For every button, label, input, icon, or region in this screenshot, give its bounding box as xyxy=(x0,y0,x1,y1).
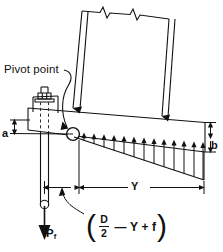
formula-numerator: D xyxy=(99,214,109,225)
load-label: Pf xyxy=(46,228,56,240)
pivot-point-label: Pivot point xyxy=(4,64,59,76)
formula-fraction: D 2 xyxy=(99,214,109,239)
formula-denominator: 2 xyxy=(101,228,107,239)
formula-close-paren: ) xyxy=(157,214,167,238)
formula-term-f: f xyxy=(152,221,156,233)
formula-minus-operator: — xyxy=(115,221,127,233)
dimension-b-label: b xyxy=(211,140,218,151)
break-line xyxy=(82,7,169,20)
base-plate xyxy=(28,108,205,152)
formula-open-paren: ( xyxy=(86,214,96,238)
pivot-leader-line xyxy=(61,70,72,130)
vessel-shell xyxy=(73,11,175,117)
fillet-weld xyxy=(73,107,171,122)
pressure-arrows xyxy=(81,133,205,180)
hex-nut xyxy=(35,87,54,102)
load-label-text: P xyxy=(46,227,54,239)
dimension-Y-label: Y xyxy=(131,181,138,192)
anchor-bolt xyxy=(40,131,48,209)
formula-expression: ( D 2 — Y + f ) xyxy=(86,214,167,239)
formula-plus-operator: + xyxy=(142,221,149,233)
formula-term-Y: Y xyxy=(130,221,138,233)
dimension-Y xyxy=(78,140,204,194)
dimension-a-label: a xyxy=(2,128,8,139)
figure-canvas: Pivot point a b Y Pf ( D 2 — Y + f ) xyxy=(0,0,223,252)
load-label-subscript: f xyxy=(54,232,57,241)
anchor-bolt-hole-dashed xyxy=(41,102,49,132)
